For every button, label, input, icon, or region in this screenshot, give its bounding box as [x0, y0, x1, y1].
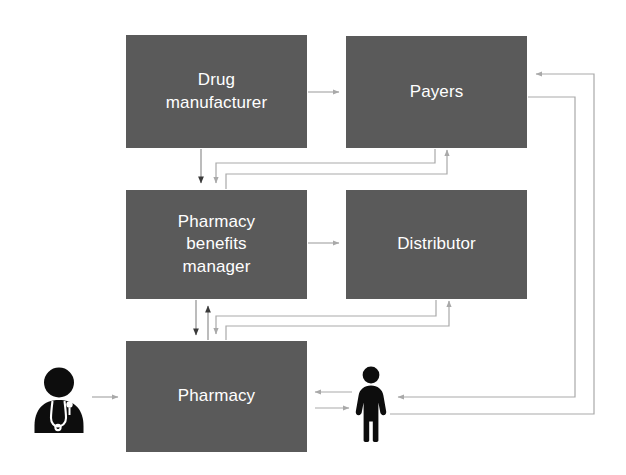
node-distributor[interactable]: Distributor: [346, 190, 527, 299]
node-distributor-label: Distributor: [397, 233, 476, 255]
patient-icon: [355, 366, 387, 442]
edge-payers-to-pbm: [216, 149, 435, 183]
arrow-layer: [0, 0, 626, 475]
node-pharmacy-benefits-manager[interactable]: Pharmacy benefits manager: [126, 190, 307, 299]
node-payers[interactable]: Payers: [346, 36, 527, 148]
edge-pharmacy-to-distributor: [226, 301, 449, 340]
doctor-icon: [33, 366, 85, 434]
node-pharmacy[interactable]: Pharmacy: [126, 341, 307, 452]
supply-chain-diagram: Drug manufacturer Payers Pharmacy benefi…: [0, 0, 626, 475]
edge-distributor-to-pharmacy: [216, 300, 436, 334]
node-payers-label: Payers: [410, 81, 464, 103]
node-pharmacy-benefits-manager-label: Pharmacy benefits manager: [178, 211, 255, 277]
node-drug-manufacturer[interactable]: Drug manufacturer: [126, 35, 307, 148]
edge-pbm-to-payers: [226, 150, 447, 189]
node-pharmacy-label: Pharmacy: [178, 385, 255, 407]
node-drug-manufacturer-label: Drug manufacturer: [166, 69, 267, 113]
